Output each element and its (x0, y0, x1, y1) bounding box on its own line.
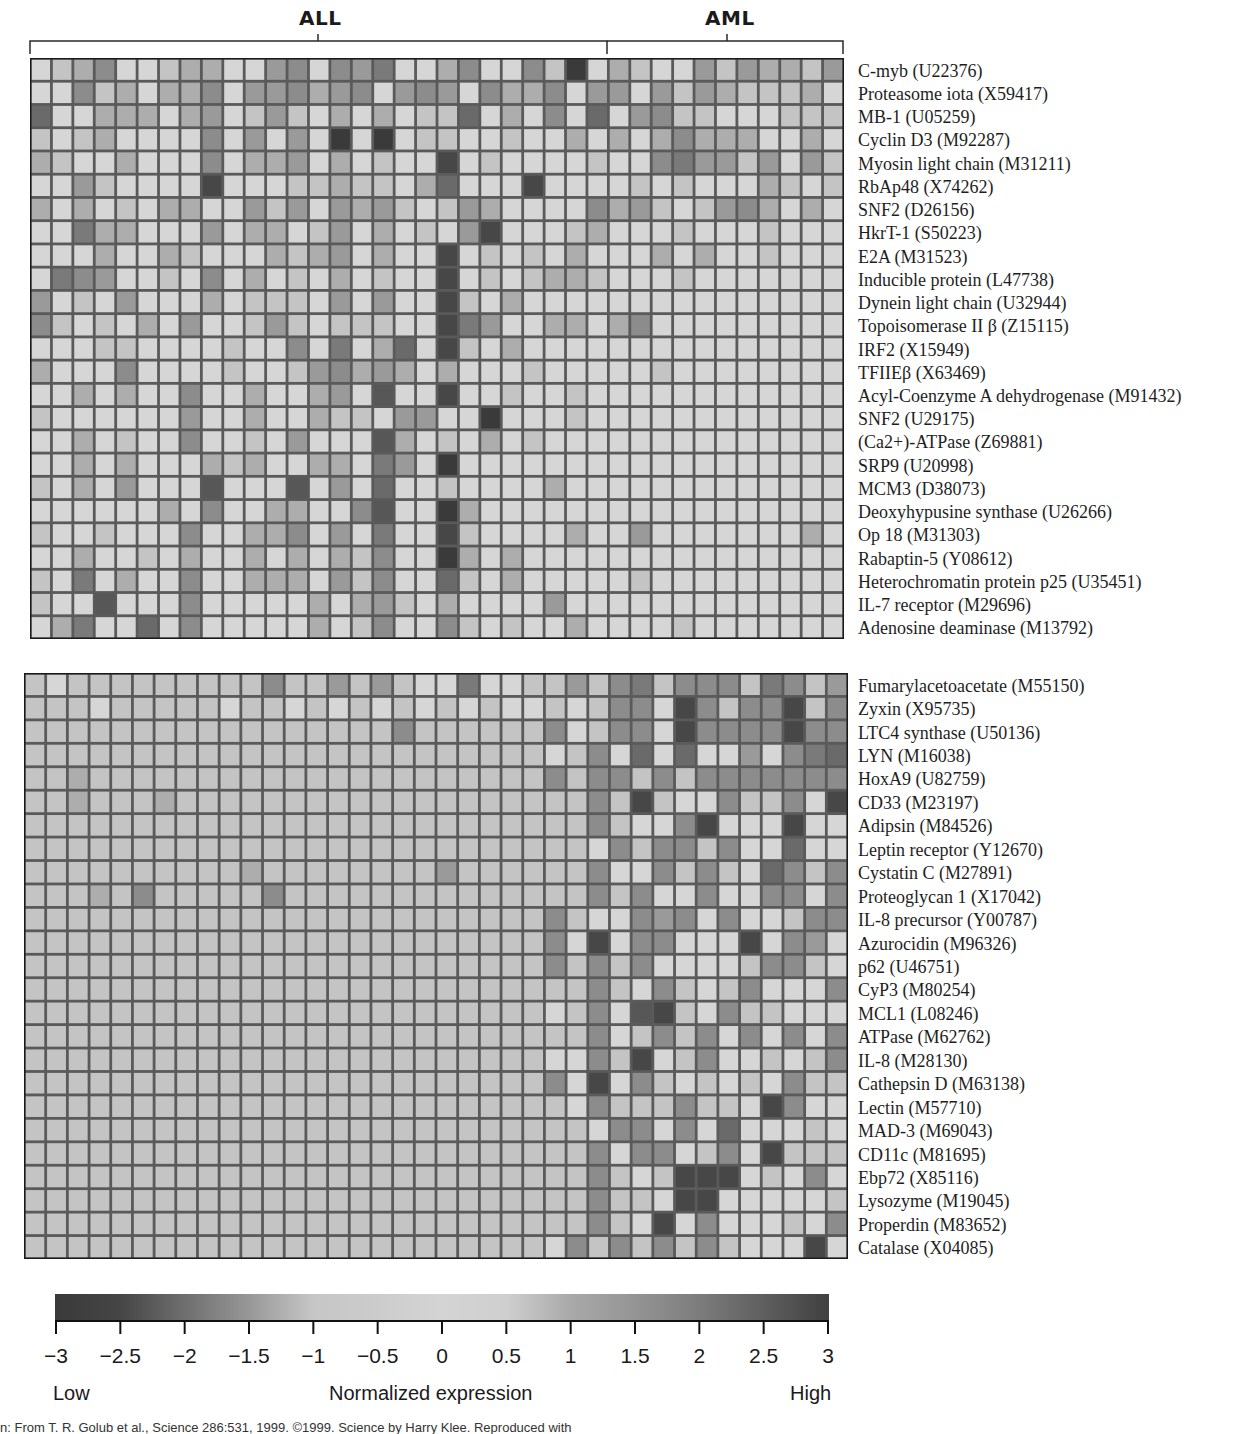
heatmap-cell (156, 1003, 175, 1024)
heatmap-cell (177, 1167, 196, 1188)
heatmap-cell (653, 106, 672, 126)
heatmap-cell (503, 385, 522, 405)
heatmap-cell (224, 385, 243, 405)
heatmap-cell (288, 59, 307, 79)
heatmap-cell (589, 1237, 608, 1258)
heatmap-cell (524, 1003, 543, 1024)
heatmap-cell (781, 152, 800, 172)
heatmap-cell (781, 222, 800, 242)
heatmap-cell (221, 909, 240, 930)
heatmap-cell (96, 83, 115, 103)
heatmap-cell (264, 1214, 283, 1235)
heatmap-cell (438, 129, 457, 149)
heatmap-cell (695, 617, 714, 637)
heatmap-cell (396, 269, 415, 289)
heatmap-cell (481, 454, 500, 474)
heatmap-cell (156, 1073, 175, 1094)
heatmap-cell (177, 745, 196, 766)
heatmap-cell (719, 815, 738, 836)
heatmap-cell (568, 1167, 587, 1188)
heatmap-cell (242, 792, 261, 813)
heatmap-cell (695, 454, 714, 474)
heatmap-cell (828, 862, 847, 883)
heatmap-cell (568, 956, 587, 977)
heatmap-cell (631, 594, 650, 614)
heatmap-cell (374, 431, 393, 451)
heatmap-cell (331, 245, 350, 265)
heatmap-cell (460, 431, 479, 451)
heatmap-cell (160, 199, 179, 219)
heatmap-cell (674, 292, 693, 312)
heatmap-cell (203, 431, 222, 451)
heatmap-cell (177, 956, 196, 977)
heatmap-cell (69, 1003, 88, 1024)
heatmap-cell (763, 1049, 782, 1070)
heatmap-cell (568, 745, 587, 766)
heatmap-cell (611, 698, 630, 719)
heatmap-cell (396, 129, 415, 149)
heatmap-cell (828, 1214, 847, 1235)
heatmap-cell (676, 862, 695, 883)
heatmap-cell (460, 571, 479, 591)
heatmap-cell (781, 338, 800, 358)
heatmap-cell (738, 222, 757, 242)
heatmap-cell (288, 362, 307, 382)
heatmap-cell (242, 885, 261, 906)
heatmap-cell (267, 524, 286, 544)
heatmap-cell (567, 594, 586, 614)
heatmap-cell (53, 362, 72, 382)
heatmap-cell (329, 838, 348, 859)
heatmap-cell (139, 292, 158, 312)
heatmap-cell (502, 956, 521, 977)
heatmap-cell (372, 1073, 391, 1094)
heatmap-cell (286, 885, 305, 906)
heatmap-cell (481, 721, 500, 742)
heatmap-cell (524, 292, 543, 312)
gene-label: Op 18 (M31303) (858, 526, 980, 544)
heatmap-cell (139, 222, 158, 242)
heatmap-cell (546, 59, 565, 79)
heatmap-cell (524, 721, 543, 742)
heatmap-cell (698, 1167, 717, 1188)
heatmap-cell (47, 1026, 66, 1047)
heatmap-cell (221, 1167, 240, 1188)
heatmap-cell (221, 1190, 240, 1211)
heatmap-cell (503, 617, 522, 637)
heatmap-cell (695, 292, 714, 312)
heatmap-cell (437, 979, 456, 1000)
heatmap-cell (717, 338, 736, 358)
heatmap-cell (351, 1214, 370, 1235)
heatmap-cell (503, 245, 522, 265)
heatmap-cell (177, 1214, 196, 1235)
heatmap-cell (502, 1073, 521, 1094)
heatmap-cell (160, 571, 179, 591)
heatmap-cell (96, 338, 115, 358)
heatmap-cell (74, 222, 93, 242)
heatmap-cell (719, 1073, 738, 1094)
heatmap-cell (25, 698, 44, 719)
heatmap-cell (438, 478, 457, 498)
heatmap-cell (654, 956, 673, 977)
heatmap-cell (695, 269, 714, 289)
heatmap-cell (307, 1073, 326, 1094)
heatmap-cell (437, 1073, 456, 1094)
heatmap-cell (568, 721, 587, 742)
heatmap-cell (481, 199, 500, 219)
heatmap-cell (31, 362, 50, 382)
heatmap-cell (806, 1026, 825, 1047)
heatmap-cell (803, 431, 822, 451)
heatmap-cell (828, 979, 847, 1000)
heatmap-cell (806, 979, 825, 1000)
heatmap-cell (738, 547, 757, 567)
heatmap-cell (502, 698, 521, 719)
heatmap-cell (781, 59, 800, 79)
heatmap-cell (588, 454, 607, 474)
heatmap-cell (654, 1143, 673, 1164)
heatmap-cell (828, 932, 847, 953)
heatmap-cell (288, 594, 307, 614)
heatmap-cell (156, 956, 175, 977)
heatmap-cell (416, 1143, 435, 1164)
heatmap-cell (803, 222, 822, 242)
heatmap-cell (806, 1167, 825, 1188)
heatmap-cell (676, 768, 695, 789)
